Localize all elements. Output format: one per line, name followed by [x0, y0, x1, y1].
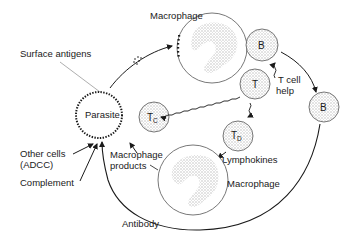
t-cell-help-arrow: [274, 63, 276, 78]
adcc-arrow: [73, 144, 93, 154]
surface-antigens-leader: [60, 62, 100, 92]
macrophage-products-label-2: products: [110, 160, 147, 171]
b-cell-1-label: B: [258, 40, 265, 51]
complement-label: Complement: [20, 177, 74, 188]
surface-antigens-label: Surface antigens: [20, 48, 92, 59]
b-cell-2-label: B: [320, 102, 327, 113]
tc-activation-arrow: [161, 97, 240, 117]
other-cells-label-1: Other cells: [20, 148, 66, 159]
t-cell-help-label-2: help: [276, 85, 294, 96]
immune-cycle-diagram: Macrophage Parasite Surface antigens B T…: [0, 0, 360, 242]
macrophage-top-label: Macrophage: [150, 10, 203, 21]
macrophage-bottom: [158, 145, 228, 215]
macrophage-top: [177, 13, 247, 83]
antibody-label: Antibody: [122, 218, 159, 229]
parasite-label: Parasite: [85, 109, 120, 120]
antigen-arrow: [110, 46, 172, 88]
macrophage-products-leader: [150, 165, 158, 170]
t-cell-label: T: [252, 79, 258, 90]
lymphokines-label: Lymphokines: [222, 154, 278, 165]
t-cell-help-label-1: T cell: [278, 74, 301, 85]
other-cells-label-2: (ADCC): [20, 159, 53, 170]
macrophage-bottom-label: Macrophage: [227, 178, 280, 189]
td-activation-arrow: [248, 103, 251, 117]
macrophage-products-label-1: Macrophage: [110, 149, 163, 160]
